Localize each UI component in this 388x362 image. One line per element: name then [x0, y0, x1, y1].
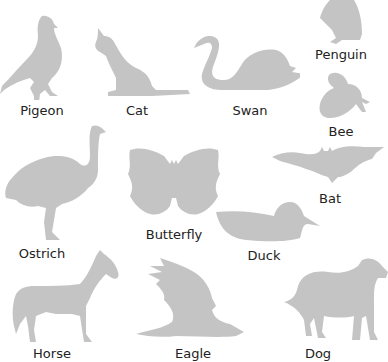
penguin-silhouette-icon: [318, 0, 364, 44]
butterfly-silhouette-icon: [126, 146, 222, 218]
horse-silhouette-icon: [6, 250, 120, 346]
swan-label: Swan: [232, 104, 267, 117]
eagle-silhouette-icon: [136, 258, 248, 342]
horse-label: Horse: [33, 347, 71, 360]
bat-silhouette-icon: [272, 143, 384, 183]
bee-label: Bee: [329, 125, 354, 138]
penguin-label: Penguin: [315, 48, 367, 61]
duck-label: Duck: [248, 249, 281, 262]
dog-label: Dog: [305, 347, 331, 360]
duck-silhouette-icon: [216, 198, 320, 242]
bat-label: Bat: [319, 192, 341, 205]
swan-silhouette-icon: [192, 34, 300, 94]
pigeon-label: Pigeon: [20, 104, 64, 117]
cat-label: Cat: [126, 104, 148, 117]
pigeon-silhouette-icon: [0, 14, 66, 100]
eagle-label: Eagle: [175, 347, 211, 360]
butterfly-label: Butterfly: [146, 228, 203, 241]
ostrich-silhouette-icon: [2, 124, 106, 242]
dog-silhouette-icon: [282, 256, 388, 344]
bee-silhouette-icon: [316, 72, 378, 122]
cat-silhouette-icon: [94, 28, 192, 98]
